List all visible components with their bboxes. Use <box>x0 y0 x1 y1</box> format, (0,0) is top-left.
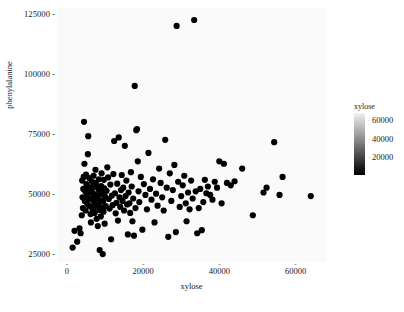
scatter-point <box>197 186 203 192</box>
scatter-point <box>100 251 106 257</box>
scatter-point <box>174 23 180 29</box>
scatter-point <box>115 217 121 223</box>
scatter-point <box>81 161 87 167</box>
scatter-point <box>231 178 237 184</box>
scatter-point <box>107 182 113 188</box>
legend-tick-mark: - <box>368 115 371 125</box>
scatter-point <box>154 203 160 209</box>
scatter-point <box>153 191 159 197</box>
scatter-point <box>81 119 87 125</box>
scatter-point <box>151 219 157 225</box>
scatter-point <box>156 165 162 171</box>
scatter-point <box>190 195 196 201</box>
scatter-point <box>150 176 156 182</box>
scatter-point <box>90 173 96 179</box>
scatter-point <box>178 193 184 199</box>
plot-panel <box>57 8 326 262</box>
scatter-point <box>183 218 189 224</box>
scatter-point <box>136 199 142 205</box>
scatter-point <box>88 219 94 225</box>
scatter-point <box>250 212 256 218</box>
scatter-point <box>205 183 211 189</box>
x-tick-value: 20000 <box>132 266 153 277</box>
y-axis-tick-100000: 100000- <box>24 69 55 79</box>
scatter-point <box>209 197 215 203</box>
legend-tick-mark: - <box>368 134 371 144</box>
scatter-point <box>181 173 187 179</box>
scatter-point <box>164 185 170 191</box>
y-tick-mark: - <box>52 129 55 139</box>
scatter-plot-figure: 125000-100000-75000-50000-25000- phenyla… <box>0 0 404 312</box>
scatter-point <box>116 134 122 140</box>
scatter-point <box>279 174 285 180</box>
scatter-point <box>122 143 128 149</box>
scatter-point <box>95 223 101 229</box>
scatter-point <box>147 186 153 192</box>
scatter-point <box>125 231 131 237</box>
scatter-point <box>183 200 189 206</box>
scatter-point <box>142 192 148 198</box>
scatter-point <box>120 185 126 191</box>
scatter-point <box>196 205 202 211</box>
legend-tick-value: 60000 <box>372 115 393 125</box>
legend-colorbar <box>354 113 365 175</box>
x-tick-value: 0 <box>65 266 69 277</box>
scatter-point <box>188 177 194 183</box>
y-tick-mark: - <box>52 9 55 19</box>
scatter-point <box>132 83 138 89</box>
scatter-point <box>135 188 141 194</box>
scatter-point <box>171 162 177 168</box>
scatter-point <box>162 137 168 143</box>
y-axis-tick-125000: 125000- <box>24 9 55 19</box>
scatter-point <box>159 194 165 200</box>
scatter-point <box>85 133 91 139</box>
scatter-point <box>148 197 154 203</box>
scatter-point <box>130 195 136 201</box>
scatter-point <box>105 174 111 180</box>
scatter-point <box>191 17 197 23</box>
scatter-point <box>129 218 135 224</box>
scatter-point <box>158 180 164 186</box>
scatter-point <box>276 192 282 198</box>
scatter-point <box>123 177 129 183</box>
y-tick-mark: - <box>52 189 55 199</box>
y-tick-value: 125000 <box>24 9 50 19</box>
scatter-point <box>126 189 132 195</box>
x-axis-tick-60000: -60000 <box>285 262 306 277</box>
legend: xylose -60000-40000-20000 <box>352 102 404 175</box>
y-axis-tick-75000: 75000- <box>28 129 55 139</box>
x-axis-title: xylose <box>57 281 326 291</box>
scatter-point <box>132 205 138 211</box>
x-tick-value: 60000 <box>285 266 306 277</box>
scatter-point <box>108 236 114 242</box>
legend-tick-value: 40000 <box>372 134 393 144</box>
scatter-point <box>202 177 208 183</box>
scatter-point <box>102 221 108 227</box>
scatter-point <box>135 158 141 164</box>
scatter-point <box>119 172 125 178</box>
x-tick-value: 40000 <box>209 266 230 277</box>
scatter-point <box>239 165 245 171</box>
scatter-point <box>113 210 119 216</box>
y-axis-tick-25000: 25000- <box>28 249 55 259</box>
scatter-point <box>219 200 225 206</box>
scatter-point <box>165 234 171 240</box>
scatter-point <box>177 204 183 210</box>
scatter-point <box>104 164 110 170</box>
scatter-point <box>138 174 144 180</box>
y-axis-tick-50000: 50000- <box>28 189 55 199</box>
y-tick-mark: - <box>52 69 55 79</box>
scatter-point <box>139 227 145 233</box>
scatter-point <box>78 230 84 236</box>
scatter-point <box>131 233 137 239</box>
scatter-point <box>127 210 133 216</box>
legend-body: -60000-40000-20000 <box>352 113 404 175</box>
x-axis-tick-0: -0 <box>65 262 69 277</box>
x-axis-tick-20000: -20000 <box>132 262 153 277</box>
legend-tick-mark: - <box>368 152 371 162</box>
legend-tick-value: 20000 <box>372 152 393 162</box>
scatter-point <box>98 170 104 176</box>
scatter-point <box>170 187 176 193</box>
scatter-point <box>173 229 179 235</box>
scatter-point <box>141 181 147 187</box>
